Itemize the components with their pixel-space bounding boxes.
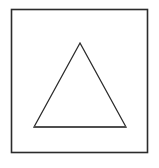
square-frame-shape	[12, 10, 148, 153]
triangle-shape	[34, 43, 126, 127]
figure-canvas	[0, 0, 159, 168]
geometry-figure	[0, 0, 159, 168]
